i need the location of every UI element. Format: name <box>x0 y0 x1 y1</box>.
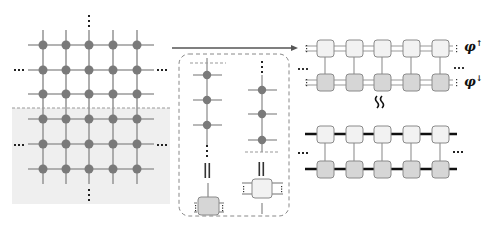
phi-down-label: φ↓ <box>464 73 482 89</box>
mps-pair-bottom <box>298 126 463 178</box>
inset-right-column <box>242 61 283 214</box>
phi-up-label: φ↑ <box>464 38 482 54</box>
tensor-network-diagram <box>0 0 485 227</box>
inset-left-column <box>190 58 226 215</box>
mps-pair-top <box>298 40 464 91</box>
approx-icon <box>376 96 384 108</box>
arrow-right-icon <box>172 45 298 51</box>
